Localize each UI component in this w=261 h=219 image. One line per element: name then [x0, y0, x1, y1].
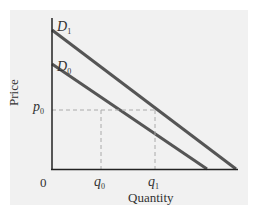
p0-label: p0 [33, 99, 44, 116]
d0-label: D0 [57, 59, 71, 76]
x-axis-label: Quantity [128, 190, 174, 206]
origin-label: 0 [40, 175, 47, 191]
d0-curve [52, 64, 207, 169]
q1-label: q1 [148, 174, 159, 191]
d1-label: D1 [57, 19, 71, 36]
d1-curve [52, 30, 236, 169]
y-axis-label: Price [6, 79, 22, 106]
q0-label: q0 [94, 174, 105, 191]
